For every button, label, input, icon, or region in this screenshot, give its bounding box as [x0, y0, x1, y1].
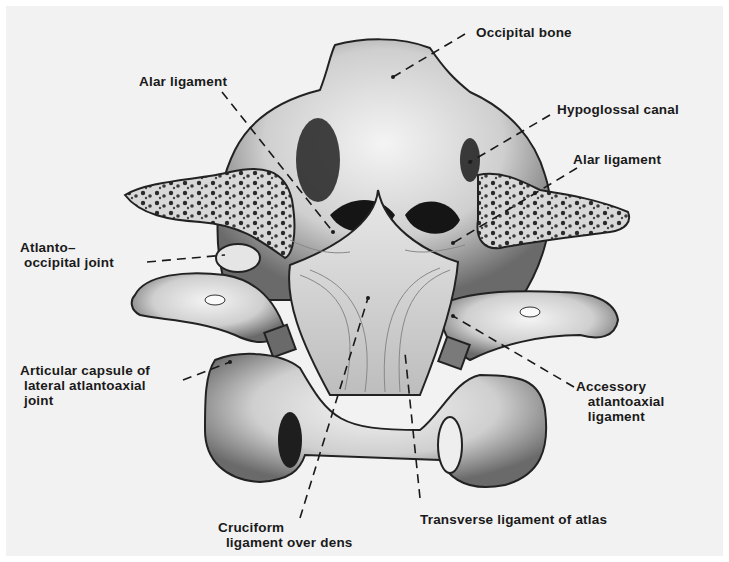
- label-cruciform-ligament: Cruciform ligament over dens: [218, 520, 353, 550]
- label-alar-ligament-left: Alar ligament: [139, 74, 227, 89]
- label-hypoglossal-canal: Hypoglossal canal: [557, 102, 679, 117]
- anatomy-figure: Occipital bone Alar ligament Hypoglossal…: [0, 0, 729, 562]
- illustration: [0, 0, 729, 562]
- label-alar-ligament-right: Alar ligament: [573, 152, 661, 167]
- left-condyle-section: [125, 169, 294, 258]
- label-transverse-ligament: Transverse ligament of atlas: [420, 512, 607, 527]
- label-occipital-bone: Occipital bone: [476, 25, 572, 40]
- label-accessory-atlantoaxial-ligament: Accessory atlantoaxial ligament: [576, 379, 665, 424]
- right-condyle-section: [477, 174, 629, 249]
- label-atlanto-occipital-joint: Atlanto– occipital joint: [20, 240, 114, 270]
- label-articular-capsule: Articular capsule of lateral atlantoaxia…: [20, 363, 150, 408]
